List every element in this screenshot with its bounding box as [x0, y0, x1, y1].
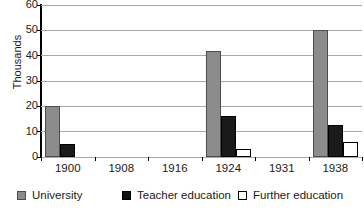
y-axis-tick	[37, 30, 41, 31]
legend-label: University	[32, 189, 82, 201]
legend-swatch-icon	[238, 191, 247, 200]
legend-item[interactable]: University	[17, 188, 82, 202]
bar	[236, 149, 251, 157]
y-axis-tick-label: 0	[12, 151, 38, 162]
legend-label: Further education	[253, 189, 343, 201]
bar	[313, 30, 328, 157]
bar	[60, 144, 75, 157]
x-axis-tick-label: 1931	[255, 162, 309, 175]
legend-item[interactable]: Teacher education	[122, 188, 231, 202]
y-axis-tick-labels: 0102030405060	[12, 0, 38, 160]
y-axis-tick-label: 10	[12, 126, 38, 137]
y-axis-tick-label: 20	[12, 100, 38, 111]
x-axis-tick	[309, 157, 310, 161]
bar-group	[45, 5, 90, 157]
x-axis-tick	[148, 157, 149, 161]
legend-swatch-icon	[122, 191, 131, 200]
bar-group	[206, 5, 251, 157]
x-axis-tick-label: 1916	[148, 162, 202, 175]
y-axis-tick	[37, 55, 41, 56]
bar	[343, 142, 358, 157]
bar	[221, 116, 236, 157]
bar-group	[259, 5, 304, 157]
y-axis-tick	[37, 81, 41, 82]
x-axis-tick-label: 1938	[309, 162, 363, 175]
bar-group	[152, 5, 197, 157]
legend-item[interactable]: Further education	[238, 188, 343, 202]
x-axis-tick-label: 1900	[41, 162, 95, 175]
y-axis-tick-label: 30	[12, 75, 38, 86]
y-axis-tick	[37, 131, 41, 132]
bar-group	[99, 5, 144, 157]
bar	[45, 106, 60, 157]
x-axis-tick-label: 1908	[95, 162, 149, 175]
y-axis-tick-label: 40	[12, 50, 38, 61]
bar-group	[313, 5, 358, 157]
x-axis-tick	[95, 157, 96, 161]
plot-area	[41, 5, 362, 157]
x-axis-tick	[255, 157, 256, 161]
x-axis-tick-label: 1924	[202, 162, 256, 175]
y-axis-tick-label: 50	[12, 24, 38, 35]
caption-sliver	[0, 210, 364, 219]
x-axis-tick	[362, 157, 363, 161]
y-axis-tick	[37, 106, 41, 107]
bar	[328, 125, 343, 157]
legend-label: Teacher education	[137, 189, 231, 201]
x-axis-tick-labels: 190019081916192419311938	[41, 162, 362, 178]
bar-chart: Thousands 0102030405060 1900190819161924…	[0, 0, 364, 219]
y-axis-tick	[37, 5, 41, 6]
chart-legend: UniversityTeacher educationFurther educa…	[0, 188, 364, 204]
x-axis-tick	[41, 157, 42, 161]
legend-swatch-icon	[17, 191, 26, 200]
y-axis-tick-label: 60	[12, 0, 38, 10]
bar	[206, 51, 221, 157]
x-axis-tick	[202, 157, 203, 161]
